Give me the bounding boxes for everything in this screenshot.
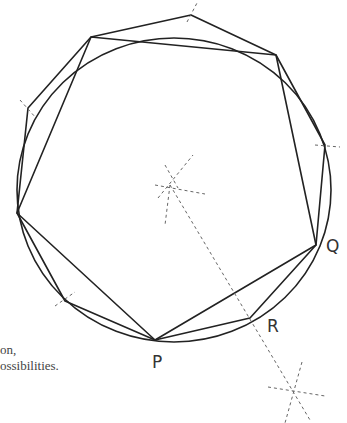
circumscribed-circle: [17, 38, 331, 342]
label-r: R: [267, 316, 279, 336]
caption-line-1: on,: [0, 342, 59, 358]
caption-line-2: ossibilities.: [0, 358, 59, 374]
caption-text: on, ossibilities.: [0, 342, 59, 374]
construction-marks: [20, 3, 340, 423]
label-q: Q: [326, 236, 339, 256]
decagon: [17, 15, 325, 340]
label-p: P: [152, 352, 162, 372]
